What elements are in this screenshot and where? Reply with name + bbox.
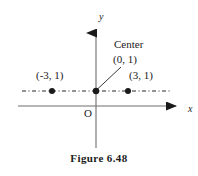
figure-caption: Figure 6.48 (0, 152, 198, 164)
center-leader-line (97, 67, 122, 90)
left-point-coordinate-label: (-3, 1) (36, 70, 64, 81)
y-axis-label: y (99, 12, 103, 22)
point-left (49, 88, 55, 94)
point-center (93, 88, 99, 94)
right-point-coordinate-label: (3, 1) (129, 70, 153, 81)
point-right (125, 88, 131, 94)
coordinate-plane-graphic (0, 0, 198, 176)
x-axis-label: x (188, 104, 192, 114)
figure-container: y x O Center (0, 1) (-3, 1) (3, 1) Figur… (0, 0, 198, 176)
origin-label: O (84, 108, 92, 119)
center-annotation-title: Center (114, 39, 143, 50)
center-coordinate-label: (0, 1) (113, 54, 137, 65)
